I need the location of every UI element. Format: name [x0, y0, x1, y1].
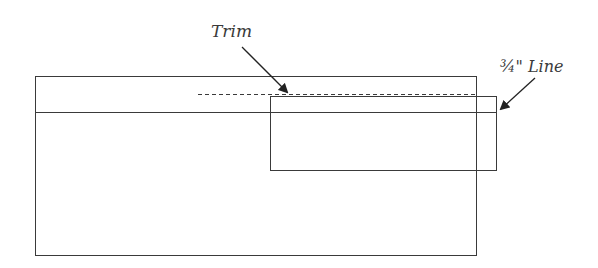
- three-quarter-line-label: ¾" Line: [500, 57, 563, 76]
- inner-rectangle: [271, 97, 497, 171]
- trim-arrow-icon: [242, 47, 287, 92]
- outer-rectangle: [36, 77, 477, 256]
- trim-diagram: Trim ¾" Line: [0, 0, 598, 268]
- three-quarter-line-arrow-icon: [501, 78, 535, 109]
- trim-label: Trim: [211, 21, 252, 41]
